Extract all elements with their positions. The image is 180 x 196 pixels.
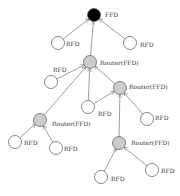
router-label: Router(FFD) (131, 139, 170, 146)
rfd-label: RFD (155, 114, 169, 121)
rfd-node (141, 113, 154, 126)
router-label: Router(FFD) (100, 59, 139, 66)
edge-r4a-to-router4 (104, 149, 116, 172)
rfd-node (146, 164, 159, 177)
rfd-node (50, 142, 63, 155)
network-topology-diagram: FFDRFDRFDRouter(FFD)RFDRouter(FFD)RFDRFD… (0, 0, 180, 196)
rfd-label: RFD (24, 139, 38, 146)
edge-router2-to-router1 (95, 66, 115, 83)
rfd-node (95, 171, 108, 184)
rfd-label: RFD (140, 41, 154, 48)
router-node (84, 56, 97, 69)
edge-r4b-to-router4 (124, 147, 147, 166)
edge-router4-to-router2 (119, 94, 120, 136)
router-label: Router(FFD) (52, 120, 91, 127)
rfd-label: RFD (64, 145, 78, 152)
rfd-label: RFD (111, 175, 125, 182)
edge-r3a-to-router3 (20, 124, 35, 137)
coordinator-node (88, 9, 101, 22)
rfd-node (124, 37, 137, 50)
edge-router3-to-router1 (44, 67, 86, 115)
edge-r0a-to-coord (63, 19, 89, 39)
rfd-label: RFD (53, 66, 67, 73)
edge-r2a-to-router2 (94, 91, 115, 103)
rfd-node (52, 37, 65, 50)
edge-r2a-to-router1 (88, 68, 89, 100)
edge-router1-to-coord (91, 21, 94, 55)
edge-r0b-to-coord (99, 19, 125, 39)
rfd-label: RFD (98, 110, 112, 117)
router-label: Router(FFD) (129, 83, 168, 90)
rfd-label: RFD (66, 40, 80, 47)
router-node (114, 82, 127, 95)
rfd-label: RFD (161, 167, 175, 174)
edge-r2b-to-router2 (124, 93, 142, 114)
coordinator-label: FFD (105, 11, 118, 18)
rfd-node (45, 76, 58, 89)
rfd-node (82, 101, 95, 114)
rfd-node (9, 136, 22, 149)
edge-r3b-to-router3 (43, 126, 53, 143)
router-node (34, 114, 47, 127)
router-node (113, 137, 126, 150)
